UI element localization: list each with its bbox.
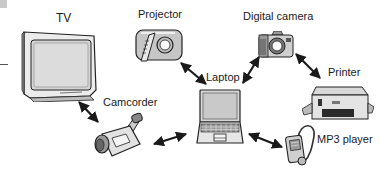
label-digital-camera: Digital camera xyxy=(243,10,313,22)
tv-icon xyxy=(20,30,100,102)
arrow-laptop-mp3 xyxy=(249,134,282,147)
label-mp3-player: MP3 player xyxy=(317,133,373,145)
mp3-player-icon xyxy=(284,122,318,168)
label-tv: TV xyxy=(56,11,71,25)
arrow-camera-printer xyxy=(296,54,320,78)
laptop-icon xyxy=(196,89,244,145)
camcorder-icon xyxy=(90,112,150,162)
label-projector: Projector xyxy=(138,8,182,20)
printer-device xyxy=(302,83,374,125)
mp3-player-device xyxy=(284,122,318,168)
laptop-device xyxy=(196,89,244,145)
projector-icon xyxy=(135,27,183,63)
arrow-camcorder-laptop xyxy=(154,134,186,144)
label-laptop: Laptop xyxy=(206,71,240,83)
projector-device xyxy=(135,27,183,63)
printer-icon xyxy=(302,83,374,125)
label-camcorder: Camcorder xyxy=(103,96,157,108)
arrow-projector-laptop xyxy=(181,63,206,84)
digital-camera-icon xyxy=(257,31,295,59)
digital-camera-device xyxy=(257,31,295,59)
label-printer: Printer xyxy=(328,66,360,78)
arrow-camera-laptop xyxy=(243,57,259,83)
tv-device xyxy=(20,30,100,102)
camcorder-device xyxy=(90,112,150,162)
